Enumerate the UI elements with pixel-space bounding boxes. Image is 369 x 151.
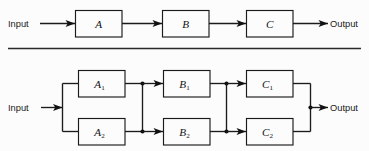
parallel-block-a2-subscript: 2 <box>101 132 105 140</box>
parallel-block-b1-subscript: 1 <box>186 84 190 92</box>
parallel-block-a1-letter: A <box>93 78 101 90</box>
series-diagram: Input A B C <box>8 11 358 38</box>
parallel-output-label: Output <box>330 103 358 113</box>
parallel-block-a2-letter: A <box>93 126 101 138</box>
series-block-a-label: A <box>94 18 102 30</box>
parallel-diagram: Input A1 A2 <box>8 71 358 146</box>
series-block-b-label: B <box>182 18 189 30</box>
series-block-c-label: C <box>266 18 274 30</box>
parallel-block-a1-subscript: 1 <box>101 84 105 92</box>
parallel-input-label: Input <box>8 103 29 113</box>
series-block-a-letter: A <box>94 18 102 30</box>
block-diagram-figure: Input A B C <box>0 0 369 151</box>
diagram-canvas: Input A B C <box>0 0 369 151</box>
parallel-block-c1-subscript: 1 <box>269 84 273 92</box>
series-block-b-letter: B <box>182 18 189 30</box>
series-input-label: Input <box>8 19 29 29</box>
series-output-label: Output <box>330 19 358 29</box>
series-block-c-letter: C <box>266 18 274 30</box>
parallel-block-b2-subscript: 2 <box>186 132 190 140</box>
parallel-block-c2-subscript: 2 <box>269 132 273 140</box>
